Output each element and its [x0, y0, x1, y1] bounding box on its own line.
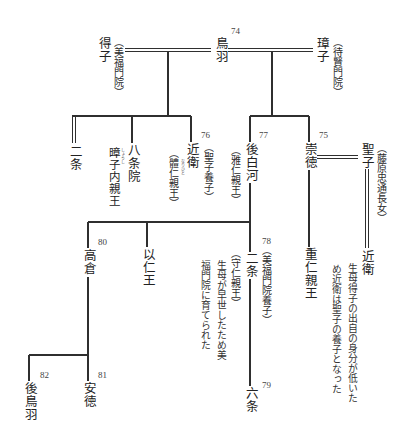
- person-name-rokujo: 六条: [244, 387, 257, 413]
- person-name-toba: 鳥羽: [214, 37, 227, 63]
- person-name-konoe: 近衛: [185, 143, 198, 169]
- personal-name-nijo: （守仁親王）: [229, 248, 239, 308]
- adoption-line-nijo: [73, 116, 76, 143]
- adoption-line-seishi-konoe: [365, 169, 368, 248]
- reign-number-toba: 74: [231, 27, 240, 36]
- personal-name-konoe: （體仁親王）: [167, 148, 177, 208]
- person-name-goshirakawa: 後白河: [244, 143, 257, 182]
- ruby-hachijoin: しょうし: [120, 148, 124, 164]
- personal-name-hachijoin: 暲子内親王: [107, 147, 119, 207]
- person-title-tokushi: （美福門院）: [112, 37, 122, 97]
- descent-line-toba-tokushi: [72, 52, 191, 144]
- person-title-nijo: （美福門院養子）: [260, 245, 270, 325]
- reign-number-gotoba: 82: [40, 371, 49, 380]
- note-nijo-upbringing-line2: 福門院に育てられた: [200, 260, 210, 350]
- person-title-konoe: （聖子養子）: [202, 142, 212, 202]
- person-name-konoe-adopted: 近衛: [360, 250, 373, 276]
- reign-number-takakura: 80: [98, 238, 107, 247]
- person-name-tokushi: 得子: [97, 37, 110, 63]
- note-nijo-upbringing-line1: 生母が早世したため美: [216, 260, 226, 360]
- note-konoe-adoption-line2: め近衛は聖子の養子となった: [331, 264, 341, 394]
- person-title-shoshi: （待賢門院）: [331, 37, 341, 97]
- descent-line-takakura: [29, 277, 88, 381]
- person-name-seishi: 聖子: [360, 143, 373, 169]
- person-name-sutoku: 崇徳: [303, 143, 316, 169]
- marriage-line-sutoku-seishi: [317, 155, 358, 158]
- marriage-line-toba-shoshi: [228, 48, 313, 52]
- note-konoe-adoption-line1: 生母得子の出自の身分が低いた: [347, 263, 357, 403]
- person-name-hachijoin: 八条院: [126, 144, 139, 183]
- reign-number-konoe: 76: [201, 131, 210, 140]
- marriage-line-tokushi-toba: [125, 48, 211, 52]
- person-name-antoku: 安徳: [82, 382, 95, 408]
- person-name-gotoba: 後鳥羽: [23, 382, 36, 421]
- ruby-konoe: なりひと: [180, 159, 184, 175]
- person-name-shoshi: 璋子: [315, 37, 328, 63]
- person-name-takakura: 高倉: [82, 249, 95, 275]
- reign-number-antoku: 81: [98, 371, 107, 380]
- descent-line-toba-shoshi: [250, 52, 309, 143]
- person-title-seishi: （藤原忠通長女）: [375, 143, 385, 223]
- reign-number-goshirakawa: 77: [259, 131, 268, 140]
- imperial-genealogy-diagram: 74 鳥羽 得子 （美福門院） 璋子 （待賢門院） 二条 八条院 しょうし 暲子…: [0, 0, 409, 440]
- person-name-shigehito: 重仁親王: [303, 248, 316, 300]
- personal-name-goshirakawa: （雅仁親王）: [229, 145, 239, 205]
- person-name-nijo: 二条: [244, 252, 257, 278]
- person-name-nijo-top: 二条: [68, 145, 81, 171]
- reign-number-rokujo: 79: [262, 381, 271, 390]
- person-name-mochihito: 以仁王: [141, 248, 154, 287]
- reign-number-sutoku: 75: [319, 131, 328, 140]
